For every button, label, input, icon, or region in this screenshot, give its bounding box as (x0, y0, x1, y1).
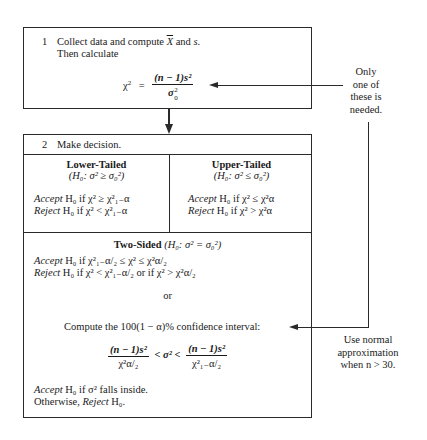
upper-tailed-hypothesis: (H₀: σ² ≤ σ₀²) (214, 170, 270, 181)
step1-number: 1 (42, 36, 47, 47)
or-separator: or (24, 290, 311, 301)
step1-line1: Collect data and compute X and s. (57, 36, 200, 47)
two-sided-hypothesis: (H₀: σ² = σ₀²) (164, 239, 221, 250)
only-one-note: Only one of these is needed. (338, 66, 394, 116)
note-connector-vertical (368, 122, 369, 328)
flow-arrow-down-icon (165, 124, 173, 134)
upper-tailed-title: Upper-Tailed (212, 159, 271, 170)
step2-header: Make decision. (57, 139, 121, 150)
lower-tailed-hypothesis: (H₀: σ² ≥ σ₀²) (69, 170, 125, 181)
lower-tailed-panel: Lower-Tailed (H₀: σ² ≥ σ₀²) (24, 159, 169, 181)
two-sided-rules: Accept H₀ if χ²₁₋α/₂ ≤ χ² ≤ χ²α/₂ Reject… (34, 255, 196, 279)
step2-number: 2 (42, 139, 47, 150)
note-arrow-line-top (218, 85, 343, 86)
two-sided-title: Two-Sided (114, 239, 162, 250)
note-arrow-line-bottom (297, 327, 369, 328)
arrow-left-icon (289, 324, 298, 330)
final-decision: Accept H₀ if σ² falls inside. Otherwise,… (34, 384, 148, 408)
ci-instruction: Compute the 100(1 − α)% confidence inter… (64, 321, 260, 332)
two-sided-divider (24, 232, 311, 233)
arrow-left-icon (209, 82, 218, 88)
step1-box: 1 Collect data and compute X and s. Then… (23, 27, 312, 109)
formula-fraction: (n − 1)s² σ20 (152, 72, 193, 102)
header-divider (24, 154, 311, 155)
confidence-interval-formula: (n − 1)s² χ²α/₂ < σ² < (n − 1)s² χ²₁₋α/₂ (24, 343, 311, 369)
upper-tailed-rules: Accept H₀ if χ² ≤ χ²α Reject H₀ if χ² > … (188, 193, 274, 217)
lower-tailed-rules: Accept H₀ if χ² ≥ χ²₁₋α Reject H₀ if χ² … (34, 193, 129, 217)
two-sided-heading: Two-Sided (H₀: σ² = σ₀²) (24, 239, 311, 250)
lower-tailed-title: Lower-Tailed (67, 159, 127, 170)
step1-line2: Then calculate (57, 48, 119, 59)
chi-square-formula: χ2 = (n − 1)s² σ20 (123, 72, 193, 102)
normal-approx-note: Use normal approximation when n > 30. (318, 334, 418, 372)
step2-box: 2 Make decision. Lower-Tailed (H₀: σ² ≥ … (23, 134, 312, 418)
upper-tailed-panel: Upper-Tailed (H₀: σ² ≤ σ₀²) (170, 159, 313, 181)
